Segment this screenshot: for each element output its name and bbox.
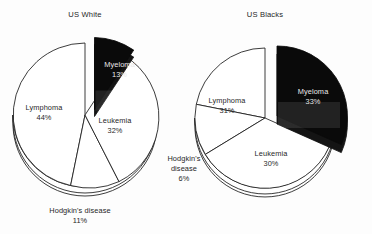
pie-label-hodgkins-us-blacks: Hodgkin's [167, 154, 200, 163]
pie-label-myeloma-us-blacks: Myeloma [298, 87, 329, 96]
pie-value-lymphoma-us-white: 44% [36, 113, 51, 122]
pie-label2-hodgkins-us-blacks: disease [171, 164, 197, 173]
pie-value-leukemia-us-blacks: 30% [263, 159, 278, 168]
pie-value-hodgkins-us-blacks: 6% [179, 174, 190, 183]
chart-title-us-blacks: US Blacks [247, 10, 283, 19]
pie-chart-figure: US White Myeloma 13% Lymphoma 44% Leukem… [0, 0, 372, 234]
pie-label-leukemia-us-white: Leukemia [99, 116, 133, 125]
pie-value-hodgkins-us-white: 11% [73, 216, 88, 225]
pie-label-myeloma-us-white: Myeloma [104, 60, 135, 69]
pie-label-hodgkins-us-white: Hodgkin's disease [49, 206, 110, 215]
pie-value-leukemia-us-white: 32% [107, 126, 122, 135]
pie-value-myeloma-us-white: 13% [112, 70, 127, 79]
pie-label-leukemia-us-blacks: Leukemia [255, 149, 289, 158]
chart-title-us-white: US White [68, 10, 101, 19]
pie-value-myeloma-us-blacks: 33% [305, 97, 320, 106]
pie-label-lymphoma-us-white: Lymphoma [25, 103, 63, 112]
pie-value-lymphoma-us-blacks: 31% [219, 106, 234, 115]
pie-label-lymphoma-us-blacks: Lymphoma [208, 96, 246, 105]
